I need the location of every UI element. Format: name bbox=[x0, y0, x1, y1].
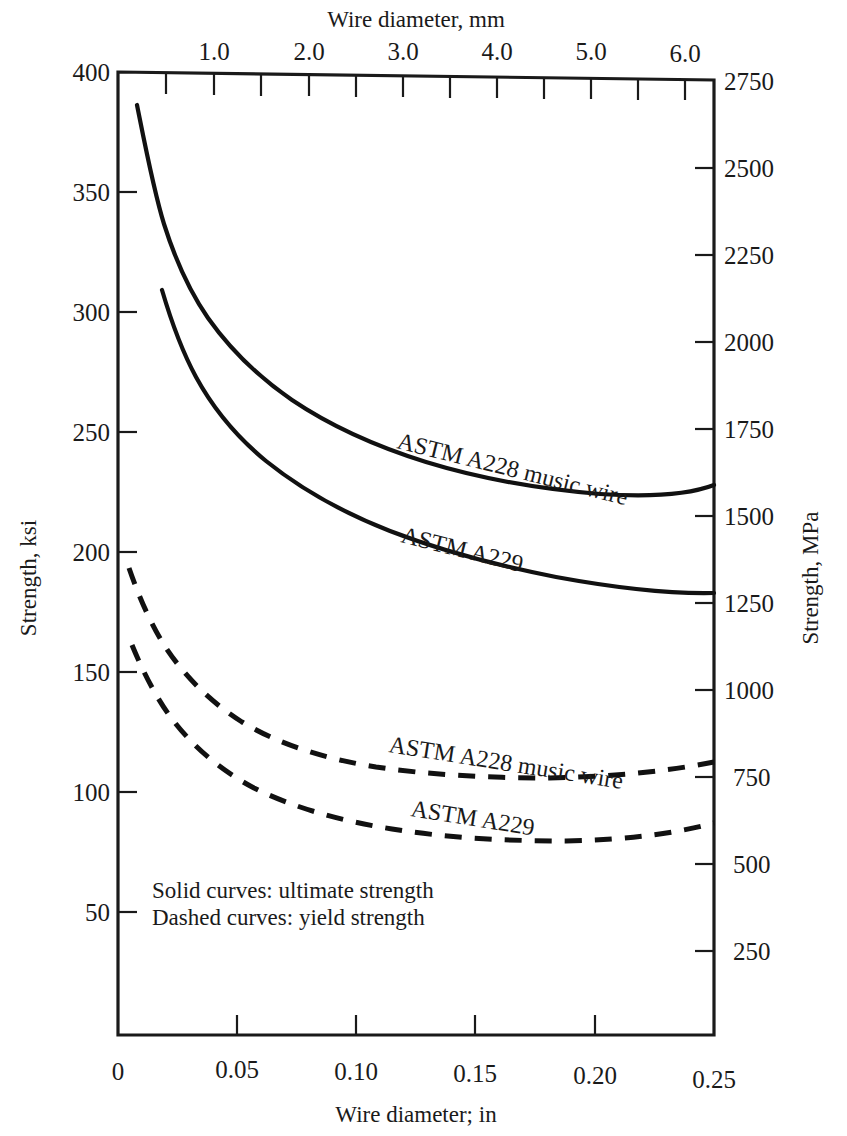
top-tick-label: 5.0 bbox=[575, 38, 606, 65]
label-a228-yield: ASTM A228 music wire bbox=[387, 731, 625, 794]
bottom-tick-label: 0.05 bbox=[215, 1056, 259, 1083]
left-tick-label: 200 bbox=[73, 539, 111, 566]
left-tick-label: 300 bbox=[73, 299, 111, 326]
left-tick-label: 150 bbox=[73, 659, 111, 686]
bottom-tick-label: 0.20 bbox=[573, 1062, 617, 1089]
strength-vs-wire-diameter-chart: Wire diameter, mm 1.0 2.0 3.0 4.0 5.0 6.… bbox=[0, 0, 847, 1136]
left-tick-label: 350 bbox=[73, 179, 111, 206]
legend-line-dashed: Dashed curves: yield strength bbox=[152, 905, 425, 930]
right-tick-label: 2500 bbox=[724, 155, 774, 182]
top-tick-label: 2.0 bbox=[293, 38, 324, 65]
left-axis-title: Strength, ksi bbox=[16, 520, 41, 636]
right-tick-label: 250 bbox=[733, 938, 771, 965]
right-tick-label: 1750 bbox=[724, 416, 774, 443]
right-tick-label: 750 bbox=[733, 764, 771, 791]
left-axis-tick-labels: 400 350 300 250 200 150 100 50 bbox=[73, 59, 111, 926]
right-tick-label: 2250 bbox=[724, 242, 774, 269]
top-tick-label: 4.0 bbox=[481, 38, 512, 65]
bottom-tick-label: 0 bbox=[112, 1058, 125, 1085]
right-tick-label: 1500 bbox=[724, 503, 774, 530]
bottom-axis-ticks bbox=[237, 1015, 595, 1035]
bottom-axis-title: Wire diameter; in bbox=[335, 1102, 497, 1127]
right-axis-tick-labels: 2750 2500 2250 2000 1750 1500 1250 1000 … bbox=[724, 68, 774, 965]
figure-container: Wire diameter, mm 1.0 2.0 3.0 4.0 5.0 6.… bbox=[0, 0, 847, 1136]
left-tick-label: 100 bbox=[73, 779, 111, 806]
bottom-tick-label: 0.10 bbox=[334, 1058, 378, 1085]
right-tick-label: 1250 bbox=[724, 590, 774, 617]
legend-line-solid: Solid curves: ultimate strength bbox=[152, 878, 434, 903]
top-tick-label: 1.0 bbox=[198, 38, 229, 65]
right-axis-title: Strength, MPa bbox=[798, 512, 823, 645]
right-tick-label: 2000 bbox=[724, 329, 774, 356]
bottom-tick-label: 0.15 bbox=[453, 1060, 497, 1087]
label-a229-ultimate: ASTM A229 bbox=[399, 522, 526, 577]
legend-note: Solid curves: ultimate strength Dashed c… bbox=[152, 878, 434, 930]
left-axis-ticks bbox=[118, 192, 137, 912]
bottom-axis-tick-labels: 0 0.05 0.10 0.15 0.20 0.25 bbox=[112, 1056, 736, 1093]
bottom-tick-label: 0.25 bbox=[692, 1066, 736, 1093]
right-tick-label: 2750 bbox=[724, 68, 774, 95]
right-tick-label: 1000 bbox=[724, 677, 774, 704]
right-tick-label: 500 bbox=[733, 851, 771, 878]
top-axis-title: Wire diameter, mm bbox=[327, 7, 505, 32]
right-axis-ticks bbox=[695, 168, 714, 951]
left-tick-label: 400 bbox=[73, 59, 111, 86]
top-tick-label: 6.0 bbox=[669, 40, 700, 67]
top-tick-label: 3.0 bbox=[387, 38, 418, 65]
left-tick-label: 50 bbox=[85, 899, 110, 926]
label-a228-ultimate: ASTM A228 music wire bbox=[395, 428, 631, 510]
left-tick-label: 250 bbox=[73, 419, 111, 446]
top-axis-tick-labels: 1.0 2.0 3.0 4.0 5.0 6.0 bbox=[198, 38, 700, 67]
